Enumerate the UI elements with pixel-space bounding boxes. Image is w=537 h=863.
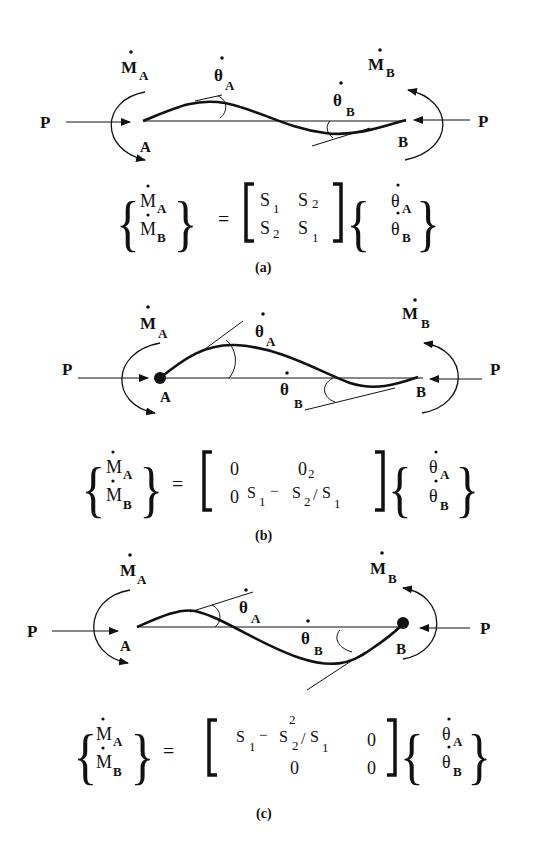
rate-dot-icon [378,48,382,52]
vector-entry-sub: A [440,467,450,482]
rate-dot-icon [146,184,149,187]
tangent-b [305,388,395,410]
matrix-entry-sub: 1 [273,201,280,216]
moment-label-mb-sub: B [386,65,395,80]
node-label-b: B [416,384,426,400]
rate-dot-icon [413,298,417,302]
panel-caption-a: (a) [255,260,272,276]
matrix-entry: S [236,728,245,745]
stiffness-equation-a: { M A M B } = S 1 S 2 S 2 S 1 { θ A [116,183,440,257]
rate-dot-icon [101,746,104,749]
rotation-label-theta-b-sub: B [314,643,323,658]
rotation-label-theta-a: θ [214,66,223,85]
left-brace-icon: { [400,722,424,790]
matrix-entry: / [301,730,306,747]
rotation-label-theta-a: θ [255,322,264,341]
stiffness-equation-b: { M A M B } = 0 0 2 0 S 1 − S 2 / S 1 [82,450,479,523]
left-brace-icon: { [388,455,412,523]
equals-sign: = [218,208,229,230]
node-label-b: B [398,134,408,150]
rate-dot-icon [434,479,437,482]
matrix-entry: 0 [290,758,299,778]
matrix-entry-sub: 1 [249,739,256,754]
vector-entry-sub: B [157,230,166,245]
equals-sign: = [172,473,183,495]
matrix-entry: S [292,484,301,501]
moment-label-mb-sub: B [421,316,430,331]
vector-entry-sub: B [440,498,449,513]
vector-entry-sub: A [123,467,133,482]
right-brace-icon: } [174,189,198,257]
load-label-p-left: P [40,113,50,132]
vector-entry: θ [391,191,400,211]
matrix-entry-sub: 1 [312,230,319,245]
beam-stiffness-figure: P P A B M A θ A [0,0,537,863]
rate-dot-icon [111,450,114,453]
tangent-b [312,128,370,146]
vector-entry-sub: A [453,734,463,749]
right-brace-icon: } [467,722,491,790]
rate-dot-icon [261,312,265,316]
matrix-entry: − [259,727,267,743]
vector-entry: θ [391,219,400,239]
panel-a: P P A B M A θ A [40,48,488,276]
load-label-p-right: P [480,619,490,638]
vector-entry-sub: A [157,201,167,216]
node-label-a: A [120,638,131,654]
moment-label-ma-sub: A [158,326,168,341]
vector-entry: θ [442,752,451,772]
node-label-b: B [396,641,406,657]
rate-dot-icon [128,553,132,557]
matrix-entry-sub: 2 [312,196,319,211]
stiffness-equation-c: { M A M B } = S 1 − S 2 2 / S 1 0 0 0 [74,712,491,790]
rate-dot-icon [129,50,133,54]
vector-entry-sub: B [113,764,122,779]
matrix-entry-sub: 1 [334,496,341,511]
beam-diagram-c: P P A B M A θ A θ B M B [27,551,490,690]
vector-entry: θ [429,486,438,506]
left-bracket-icon [204,452,212,510]
rotation-label-theta-a-sub: A [266,334,276,349]
tangent-a [195,95,222,101]
moment-label-ma: M [120,561,136,580]
vector-entry: θ [442,724,451,744]
moment-label-ma: M [140,314,156,333]
matrix-entry: − [270,483,278,499]
matrix-entry: S [247,484,256,501]
rate-dot-icon [339,81,343,85]
vector-entry: M [106,485,122,505]
left-brace-icon: { [346,189,370,257]
moment-label-mb-sub: B [388,571,397,586]
left-bracket-icon [209,720,217,775]
right-brace-icon: } [130,722,154,790]
left-brace-icon: { [82,455,106,523]
matrix-entry: S [260,190,270,210]
node-label-a: A [140,139,151,155]
rotation-label-theta-b-sub: B [346,104,355,119]
moment-label-ma-sub: A [137,572,147,587]
node-label-a: A [160,389,171,405]
rotation-label-theta-a: θ [239,598,248,617]
rate-dot-icon [380,551,384,555]
rotation-label-theta-a-sub: A [225,78,235,93]
rotation-label-theta-b: θ [280,380,289,399]
matrix-entry: S [298,190,308,210]
right-bracket-icon [375,452,383,510]
rate-dot-icon [285,371,289,375]
rate-dot-icon [396,183,399,186]
vector-entry: M [96,752,112,772]
rate-dot-icon [146,213,149,216]
rate-dot-icon [447,717,450,720]
matrix-entry-sub: 2 [292,738,299,753]
rotation-label-theta-b: θ [333,91,342,110]
moment-label-mb: M [370,559,386,578]
matrix-entry-sub: 1 [259,494,266,509]
vector-entry: M [140,219,156,239]
matrix-entry: 0 [298,459,307,479]
right-bracket-icon [333,184,341,241]
panel-caption-c: (c) [256,806,272,822]
rate-dot-icon [306,619,310,623]
matrix-entry: 0 [230,459,239,479]
right-brace-icon: } [139,455,163,523]
right-brace-icon: } [416,189,440,257]
